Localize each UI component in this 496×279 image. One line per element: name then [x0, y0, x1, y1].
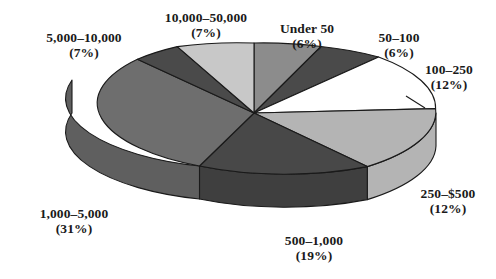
label-under-50-name: Under 50: [280, 21, 334, 36]
label-500-1000-name: 500–1,000: [285, 233, 343, 248]
label-250-500-percent: (12%): [400, 201, 496, 216]
label-100-250: 100–250 (12%): [404, 62, 494, 92]
label-50-100-name: 50–100: [378, 30, 419, 45]
label-5000-10000-percent: (7%): [14, 45, 154, 60]
label-5000-10000: 5,000–10,000 (7%): [14, 30, 154, 60]
label-100-250-name: 100–250: [425, 62, 473, 77]
label-50-100-percent: (6%): [359, 45, 439, 60]
label-10000-50000-name: 10,000–50,000: [165, 10, 247, 25]
label-50-100: 50–100 (6%): [359, 30, 439, 60]
label-under-50: Under 50 (6%): [262, 21, 352, 51]
label-under-50-percent: (6%): [262, 36, 352, 51]
pie-chart-figure: 5,000–10,000 (7%) 10,000–50,000 (7%) Und…: [0, 0, 496, 279]
label-1000-5000: 1,000–5,000 (31%): [10, 206, 138, 236]
label-250-500-name: 250–$500: [421, 186, 476, 201]
label-1000-5000-percent: (31%): [10, 221, 138, 236]
label-5000-10000-name: 5,000–10,000: [46, 30, 121, 45]
pie-slices: [97, 43, 436, 174]
label-250-500: 250–$500 (12%): [400, 186, 496, 216]
label-500-1000: 500–1,000 (19%): [256, 233, 372, 263]
label-10000-50000: 10,000–50,000 (7%): [136, 10, 276, 40]
label-1000-5000-name: 1,000–5,000: [40, 206, 109, 221]
label-500-1000-percent: (19%): [256, 248, 372, 263]
label-10000-50000-percent: (7%): [136, 25, 276, 40]
label-100-250-percent: (12%): [404, 77, 494, 92]
